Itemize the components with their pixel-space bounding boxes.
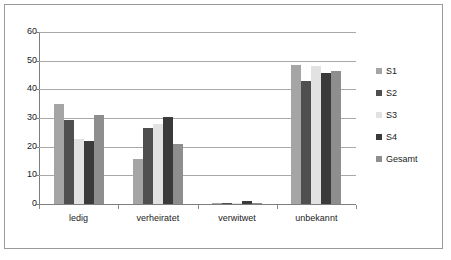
legend-item-s3[interactable]: S3 xyxy=(376,104,442,126)
legend-swatch-icon xyxy=(376,90,382,96)
bar xyxy=(291,65,301,204)
chart-legend: S1S2S3S4Gesamt xyxy=(376,60,442,170)
category-tick-mark xyxy=(39,205,40,209)
y-tick-label: 20 xyxy=(9,142,37,151)
bar xyxy=(242,201,252,204)
y-tick-label: 40 xyxy=(9,84,37,93)
legend-label: S4 xyxy=(386,132,397,142)
bar xyxy=(54,104,64,204)
bar xyxy=(153,124,163,204)
category-tick-mark xyxy=(277,205,278,209)
legend-item-s4[interactable]: S4 xyxy=(376,126,442,148)
category-tick-mark xyxy=(356,205,357,209)
bar xyxy=(232,203,242,204)
legend-swatch-icon xyxy=(376,112,382,118)
category-label-verheiratet: verheiratet xyxy=(118,213,197,224)
bar xyxy=(94,115,104,204)
bar xyxy=(331,71,341,204)
category-tick-mark xyxy=(118,205,119,209)
category-label-ledig: ledig xyxy=(39,213,118,224)
legend-swatch-icon xyxy=(376,134,382,140)
category-label-verwitwet: verwitwet xyxy=(198,213,277,224)
bar xyxy=(173,144,183,204)
legend-item-s2[interactable]: S2 xyxy=(376,82,442,104)
legend-item-s1[interactable]: S1 xyxy=(376,60,442,82)
bar xyxy=(84,141,94,204)
bar xyxy=(222,203,232,204)
bar xyxy=(163,117,173,204)
y-tick-label: 60 xyxy=(9,27,37,36)
bar xyxy=(301,81,311,204)
y-tick-label: 30 xyxy=(9,113,37,122)
bar xyxy=(212,203,222,204)
chart-frame: 6050403020100 ledigverheiratetverwitwetu… xyxy=(4,4,443,249)
y-tick-label: 10 xyxy=(9,170,37,179)
plot-area xyxy=(39,32,356,204)
legend-label: S1 xyxy=(386,66,397,76)
bar xyxy=(321,73,331,204)
bar-group xyxy=(277,32,356,204)
legend-item-gesamt[interactable]: Gesamt xyxy=(376,148,442,170)
legend-swatch-icon xyxy=(376,156,382,162)
bar-group xyxy=(39,32,118,204)
legend-label: S2 xyxy=(386,88,397,98)
bar xyxy=(143,128,153,204)
category-tick-mark xyxy=(198,205,199,209)
legend-label: Gesamt xyxy=(386,154,418,164)
y-tick-label: 0 xyxy=(9,199,37,208)
bar-group xyxy=(118,32,197,204)
bar xyxy=(311,66,321,204)
bar xyxy=(74,139,84,204)
legend-swatch-icon xyxy=(376,68,382,74)
value-axis: 6050403020100 xyxy=(5,5,37,250)
bar-group xyxy=(198,32,277,204)
bar xyxy=(252,203,262,204)
y-tick-label: 50 xyxy=(9,56,37,65)
category-label-unbekannt: unbekannt xyxy=(277,213,356,224)
legend-label: S3 xyxy=(386,110,397,120)
bar xyxy=(133,159,143,204)
bar xyxy=(64,120,74,204)
